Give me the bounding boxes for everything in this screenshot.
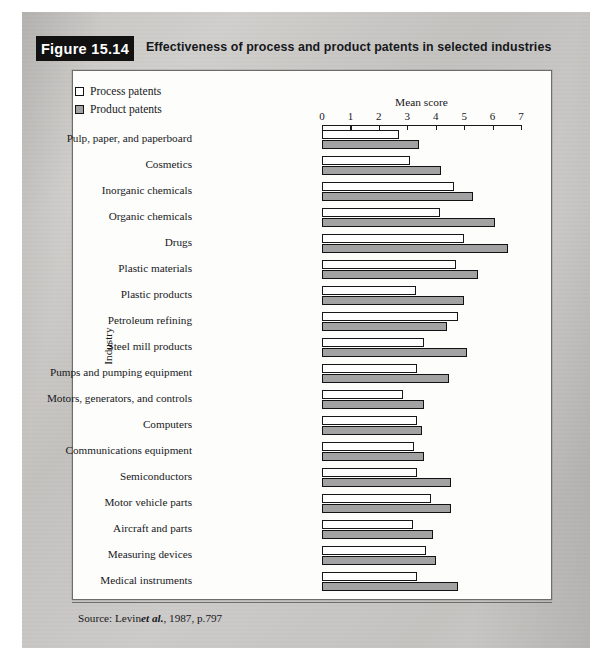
category-label: Medical instruments [0, 574, 199, 586]
category-label: Plastic products [0, 288, 199, 300]
x-axis-tick-labels: 01234567 [322, 110, 521, 123]
bar-group: Petroleum refining [322, 312, 521, 338]
category-label: Semiconductors [0, 470, 199, 482]
category-label: Drugs [0, 236, 199, 248]
bar-group: Computers [322, 416, 521, 442]
category-label: Organic chemicals [0, 210, 199, 222]
bar-product-patents [322, 556, 436, 565]
category-label: Pulp, paper, and paperboard [0, 132, 199, 144]
bar-product-patents [322, 504, 451, 513]
bar-product-patents [322, 374, 449, 383]
bar-product-patents [322, 140, 419, 149]
legend-label-process: Process patents [90, 85, 161, 98]
figure-caption: Effectiveness of process and product pat… [146, 40, 566, 54]
x-tick-label-5: 5 [461, 110, 467, 122]
bar-product-patents [322, 400, 424, 409]
x-axis-title: Mean score [322, 96, 521, 108]
x-tick-mark-7 [521, 125, 522, 130]
bar-process-patents [322, 312, 458, 321]
bar-product-patents [322, 166, 441, 175]
bar-process-patents [322, 286, 416, 295]
x-tick-label-2: 2 [376, 110, 382, 122]
bar-process-patents [322, 494, 431, 503]
bar-group: Motors, generators, and controls [322, 390, 521, 416]
bar-product-patents [322, 582, 458, 591]
category-label: Motor vehicle parts [0, 496, 199, 508]
bar-process-patents [322, 546, 426, 555]
bar-group: Drugs [322, 234, 521, 260]
x-axis-line [322, 125, 521, 126]
x-tick-label-4: 4 [433, 110, 439, 122]
category-label: Cosmetics [0, 158, 199, 170]
bar-product-patents [322, 192, 473, 201]
bar-process-patents [322, 182, 454, 191]
bar-group: Cosmetics [322, 156, 521, 182]
x-tick-label-0: 0 [319, 110, 325, 122]
bar-group: Plastic materials [322, 260, 521, 286]
bar-process-patents [322, 468, 417, 477]
x-tick-label-6: 6 [490, 110, 496, 122]
legend-label-product: Product patents [90, 103, 162, 116]
legend-swatch-product-icon [75, 105, 84, 114]
bar-plot-area: Pulp, paper, and paperboardCosmeticsInor… [322, 130, 521, 598]
x-tick-label-7: 7 [518, 110, 524, 122]
bar-group: Organic chemicals [322, 208, 521, 234]
bar-process-patents [322, 520, 413, 529]
category-label: Motors, generators, and controls [0, 392, 199, 404]
bar-process-patents [322, 338, 424, 347]
bar-group: Aircraft and parts [322, 520, 521, 546]
bar-process-patents [322, 234, 464, 243]
bar-group: Plastic products [322, 286, 521, 312]
x-tick-label-3: 3 [405, 110, 411, 122]
bar-product-patents [322, 348, 467, 357]
bar-group: Semiconductors [322, 468, 521, 494]
bar-product-patents [322, 426, 422, 435]
bar-group: Inorganic chemicals [322, 182, 521, 208]
category-label: Petroleum refining [0, 314, 199, 326]
source-citation-italic: et al. [141, 612, 163, 624]
bar-product-patents [322, 244, 508, 253]
category-label: Aircraft and parts [0, 522, 199, 534]
bar-product-patents [322, 270, 478, 279]
category-label: Computers [0, 418, 199, 430]
legend-item-product: Product patents [75, 102, 162, 117]
legend-item-process: Process patents [75, 84, 162, 99]
bar-process-patents [322, 442, 414, 451]
bar-product-patents [322, 478, 451, 487]
bar-process-patents [322, 390, 403, 399]
bar-group: Measuring devices [322, 546, 521, 572]
bar-group: Pumps and pumping equipment [322, 364, 521, 390]
x-tick-label-1: 1 [348, 110, 354, 122]
bar-process-patents [322, 156, 410, 165]
source-divider [72, 602, 552, 603]
category-label: Steel mill products [0, 340, 199, 352]
source-note: Source: Levinet al., 1987, p.797 [78, 612, 222, 624]
bar-process-patents [322, 572, 417, 581]
source-suffix: , 1987, p.797 [163, 612, 222, 624]
bar-product-patents [322, 296, 464, 305]
bar-group: Medical instruments [322, 572, 521, 598]
bar-product-patents [322, 452, 424, 461]
bar-group: Steel mill products [322, 338, 521, 364]
bar-group: Pulp, paper, and paperboard [322, 130, 521, 156]
figure-page: Figure 15.14 Effectiveness of process an… [0, 0, 611, 660]
category-label: Measuring devices [0, 548, 199, 560]
bar-process-patents [322, 208, 440, 217]
bar-group: Communications equipment [322, 442, 521, 468]
category-label: Communications equipment [0, 444, 199, 456]
category-label: Inorganic chemicals [0, 184, 199, 196]
bar-product-patents [322, 530, 433, 539]
category-label: Plastic materials [0, 262, 199, 274]
source-prefix: Source: Levin [78, 612, 141, 624]
bar-process-patents [322, 364, 417, 373]
bar-process-patents [322, 260, 456, 269]
bar-process-patents [322, 416, 417, 425]
bar-product-patents [322, 218, 495, 227]
chart-legend: Process patents Product patents [75, 84, 162, 120]
category-label: Pumps and pumping equipment [0, 366, 199, 378]
figure-number-tab: Figure 15.14 [36, 36, 134, 61]
bar-product-patents [322, 322, 447, 331]
legend-swatch-process-icon [75, 87, 84, 96]
bar-process-patents [322, 130, 399, 139]
bar-group: Motor vehicle parts [322, 494, 521, 520]
